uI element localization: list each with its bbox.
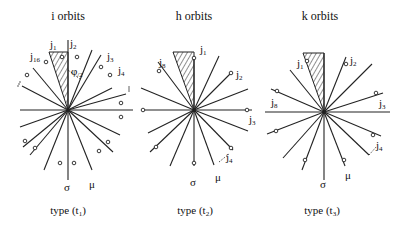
label-sigma: σ [320,178,326,190]
panel-caption: type (t2) [177,204,213,218]
label-j2: j2 [349,54,357,68]
fundamental-domain-hatch [173,52,194,110]
panel-i-orbits: i orbits [17,9,133,218]
label-mu: μ [345,169,351,181]
panel-caption: type (t1) [50,204,86,218]
label-sigma: σ [64,181,70,193]
panel-title: h orbits [176,9,213,23]
label-j1: j1 [199,43,207,57]
orbits-figure: i orbits [0,0,405,228]
label-phi: φ/2 [71,65,83,79]
ellipsis-dots [17,81,129,91]
label-j4: j4 [375,139,383,153]
label-mu: μ [89,178,95,190]
label-j4: j4 [117,64,125,78]
label-j2: j2 [69,37,77,51]
label-j16: j16 [29,50,41,64]
label-j3: j3 [248,113,256,127]
label-j8: j8 [158,56,166,70]
panel-title: i orbits [51,9,85,23]
star-rays [265,53,390,180]
label-j1: j1 [296,57,304,71]
panel-k-orbits: k orbits j1 j2 j8 j3 j4 [265,9,390,218]
label-j2: j2 [235,68,243,82]
label-j1: j1 [49,38,57,52]
label-j4: j4 [225,151,233,165]
panel-title: k orbits [302,9,339,23]
panel-h-orbits: h orbits j1 j8 j2 j3 j4 [141,9,256,218]
panel-caption: type (t3) [304,204,340,218]
label-sigma: σ [190,176,196,188]
label-j3: j3 [106,50,114,64]
label-j8: j8 [270,96,278,110]
label-j3: j3 [378,97,386,111]
label-mu: μ [215,171,221,183]
